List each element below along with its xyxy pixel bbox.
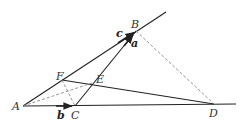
label-vector-a: a bbox=[131, 37, 138, 50]
segment-fd bbox=[62, 80, 214, 104]
geometry-diagram: A B C D E F c a b bbox=[0, 0, 248, 125]
label-vector-b: b bbox=[57, 109, 65, 122]
label-d-point: D bbox=[208, 107, 218, 120]
dashed-ae bbox=[23, 83, 92, 106]
label-f-point: F bbox=[55, 70, 64, 83]
ray-ab bbox=[23, 12, 166, 106]
label-a-point: A bbox=[11, 100, 20, 113]
label-c-point: C bbox=[71, 109, 80, 122]
label-vector-c: c bbox=[116, 27, 123, 40]
label-e-point: E bbox=[95, 73, 104, 86]
label-b-point: B bbox=[130, 18, 139, 31]
dashed-fc bbox=[62, 80, 75, 106]
ray-ad bbox=[23, 104, 236, 106]
